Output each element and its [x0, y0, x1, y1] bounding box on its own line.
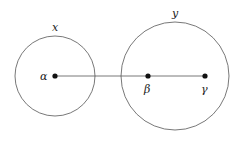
label-alpha: α: [40, 70, 48, 83]
label-y: y: [171, 7, 179, 20]
point-beta: [145, 73, 150, 78]
point-alpha: [52, 73, 57, 78]
point-gamma: [202, 73, 207, 78]
label-beta: β: [143, 83, 150, 96]
label-x: x: [52, 21, 59, 34]
diagram-canvas: x y α β γ: [0, 0, 245, 142]
label-gamma: γ: [201, 83, 208, 96]
